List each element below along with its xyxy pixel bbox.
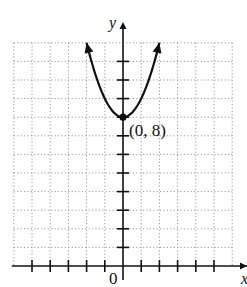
y-axis-arrow-icon — [120, 22, 127, 29]
x-axis-arrow-icon — [240, 263, 247, 270]
origin-label: 0 — [109, 269, 118, 287]
axes — [12, 22, 247, 280]
y-axis-label: y — [107, 14, 117, 32]
x-axis-label: x — [240, 270, 247, 287]
parabola-graph: (0, 8) y x 0 — [0, 0, 247, 287]
vertex-label: (0, 8) — [129, 121, 166, 140]
vertex-point — [119, 114, 126, 121]
